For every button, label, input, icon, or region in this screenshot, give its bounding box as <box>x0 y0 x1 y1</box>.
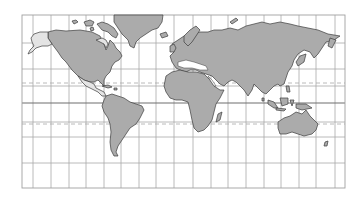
australia <box>278 110 318 136</box>
philippines <box>286 86 290 92</box>
hispaniola <box>114 88 117 90</box>
madagascar <box>216 112 222 122</box>
sri-lanka <box>262 98 264 101</box>
baffin-island <box>97 22 118 38</box>
arctic-island-small-2 <box>90 27 94 31</box>
new-guinea <box>296 104 312 110</box>
cuba <box>102 85 112 88</box>
novaya-zemlya <box>230 18 238 24</box>
arctic-island-small <box>72 20 78 24</box>
iceland <box>160 32 168 38</box>
new-zealand <box>324 141 328 146</box>
world-map <box>0 0 363 207</box>
japan <box>296 54 306 66</box>
north-america <box>48 30 122 86</box>
sumatra <box>268 100 278 108</box>
arctic-island <box>84 20 94 26</box>
java <box>276 108 286 111</box>
